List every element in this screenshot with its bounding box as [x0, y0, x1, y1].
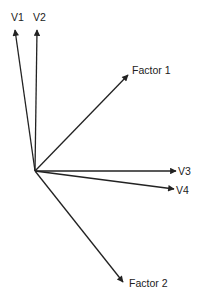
factor2-label: Factor 2 [129, 277, 168, 289]
factor-vector-diagram: V1V2Factor 1V3V4Factor 2 [0, 0, 200, 303]
v1-label: V1 [11, 11, 24, 23]
v2-label: V2 [33, 11, 46, 23]
v3-label: V3 [178, 165, 191, 177]
v4-arrow [35, 171, 174, 189]
v4-label: V4 [176, 184, 189, 196]
factor2-arrow [35, 171, 123, 282]
factor1-arrow [35, 75, 128, 171]
factor1-label: Factor 1 [132, 64, 171, 76]
v2-arrow [35, 30, 37, 171]
v1-arrow [15, 30, 35, 171]
